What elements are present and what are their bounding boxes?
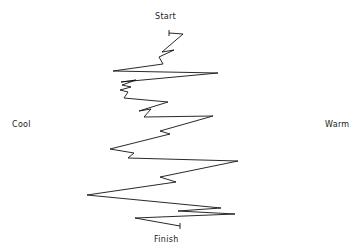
trace-plot bbox=[0, 0, 360, 252]
trace-line bbox=[87, 33, 238, 226]
